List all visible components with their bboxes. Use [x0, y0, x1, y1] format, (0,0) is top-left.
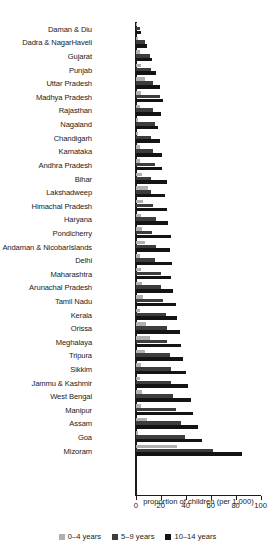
bar-segment — [136, 31, 141, 35]
bar-segment — [136, 139, 160, 143]
bar-group — [136, 349, 275, 361]
bar-row: Maharashtra — [0, 267, 275, 281]
category-label: Andaman & NicobarIslands — [2, 242, 92, 251]
x-axis-title: proportion of children (per 1,000) — [136, 497, 261, 507]
category-label: Delhi — [75, 256, 92, 265]
bar-segment — [136, 262, 172, 266]
bar-group — [136, 104, 275, 116]
legend-swatch-icon — [59, 534, 65, 540]
bar-group — [136, 309, 275, 321]
legend-item[interactable]: 0–4 years — [59, 532, 101, 541]
bar-row: Mizoram — [0, 444, 275, 458]
bar-group — [136, 281, 275, 293]
legend-label: 0–4 years — [68, 532, 101, 541]
bar-row: West Bengal — [0, 389, 275, 403]
category-label: Andhra Pradesh — [39, 160, 92, 169]
legend-label: 5–9 years — [121, 532, 154, 541]
legend-item[interactable]: 10–14 years — [165, 532, 216, 541]
bar-row: Gujarat — [0, 49, 275, 63]
bar-row: Kerala — [0, 308, 275, 322]
legend-item[interactable]: 5–9 years — [112, 532, 154, 541]
category-label: Assam — [69, 419, 92, 428]
bar-row: Punjab — [0, 63, 275, 77]
bar-group — [136, 186, 275, 198]
bar-row: Sikkim — [0, 362, 275, 376]
bar-segment — [136, 425, 198, 429]
bar-segment — [136, 452, 242, 456]
bar-group — [136, 241, 275, 253]
category-label: Orissa — [71, 324, 92, 333]
bar-row: Tamil Nadu — [0, 294, 275, 308]
bar-segment — [136, 208, 167, 212]
bar-row: Meghalaya — [0, 335, 275, 349]
bar-segment — [136, 235, 171, 239]
bar-row: Bihar — [0, 172, 275, 186]
bar-row: Tripura — [0, 349, 275, 363]
bar-group — [136, 431, 275, 443]
category-label: Mizoram — [64, 446, 92, 455]
category-label: Madhya Pradesh — [36, 92, 92, 101]
bar-group — [136, 36, 275, 48]
bar-row: Delhi — [0, 253, 275, 267]
category-label: Tamil Nadu — [55, 296, 92, 305]
bar-row: Orissa — [0, 321, 275, 335]
category-label: Pondicherry — [53, 228, 92, 237]
bar-row: Rajasthan — [0, 104, 275, 118]
bar-segment — [136, 153, 162, 157]
bar-group — [136, 50, 275, 62]
category-label: Jammu & Kashmir — [31, 378, 92, 387]
bar-row: Pondicherry — [0, 226, 275, 240]
bar-group — [136, 23, 275, 35]
category-label: Haryana — [64, 215, 92, 224]
bar-row: Lakshadweep — [0, 185, 275, 199]
category-label: Gujarat — [68, 52, 92, 61]
bar-segment — [136, 412, 193, 416]
bar-group — [136, 417, 275, 429]
bar-group — [136, 295, 275, 307]
bar-group — [136, 213, 275, 225]
category-label: Arunachal Pradesh — [29, 283, 92, 292]
bar-segment — [136, 112, 161, 116]
bar-rows: Daman & DiuDadra & NagarHaveliGujaratPun… — [0, 22, 275, 458]
bar-row: Daman & Diu — [0, 22, 275, 36]
bar-group — [136, 173, 275, 185]
category-label: Kerala — [71, 310, 92, 319]
bar-segment — [136, 344, 181, 348]
bar-row: Uttar Pradesh — [0, 76, 275, 90]
category-label: Bihar — [75, 174, 92, 183]
category-label: Maharashtra — [50, 269, 92, 278]
bar-group — [136, 118, 275, 130]
bar-row: Madhya Pradesh — [0, 90, 275, 104]
plot-area: Daman & DiuDadra & NagarHaveliGujaratPun… — [0, 22, 275, 496]
bar-segment — [136, 276, 171, 280]
bar-segment — [136, 371, 186, 375]
bar-row: Chandigarh — [0, 131, 275, 145]
bar-segment — [136, 167, 162, 171]
bar-group — [136, 91, 275, 103]
category-label: Tripura — [69, 351, 92, 360]
bar-segment — [136, 221, 168, 225]
bar-segment — [136, 126, 158, 130]
bar-segment — [136, 58, 152, 62]
bar-segment — [136, 194, 165, 198]
bar-segment — [136, 289, 173, 293]
bar-segment — [136, 303, 176, 307]
category-label: Rajasthan — [59, 106, 92, 115]
bar-group — [136, 404, 275, 416]
category-label: Himachal Pradesh — [32, 201, 92, 210]
bar-row: Manipur — [0, 403, 275, 417]
bar-row: Goa — [0, 430, 275, 444]
bar-segment — [136, 85, 160, 89]
category-label: Manipur — [65, 405, 92, 414]
bar-group — [136, 377, 275, 389]
category-label: West Bengal — [50, 392, 92, 401]
category-label: Kamataka — [59, 147, 92, 156]
bar-group — [136, 159, 275, 171]
bar-group — [136, 145, 275, 157]
bar-row: Jammu & Kashmir — [0, 376, 275, 390]
category-label: Punjab — [69, 65, 92, 74]
bar-segment — [136, 180, 167, 184]
bar-group — [136, 200, 275, 212]
legend-label: 10–14 years — [174, 532, 216, 541]
bar-segment — [136, 439, 202, 443]
